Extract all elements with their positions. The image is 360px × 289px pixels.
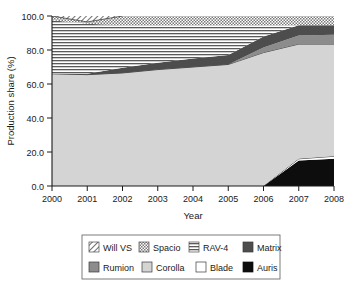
legend-swatch-rumion [89, 262, 99, 272]
x-tick-label: 2001 [77, 194, 97, 204]
legend-swatch-matrix [243, 242, 253, 252]
legend-swatch-rav4 [189, 242, 199, 252]
legend-swatch-blade [196, 262, 206, 272]
x-tick-label: 2004 [183, 194, 203, 204]
x-tick-label: 2005 [218, 194, 238, 204]
chart-figure: 100.0 80.0 60.0 40.0 20.0 0.0 2000 2001 … [0, 0, 360, 289]
y-tick-label: 40.0 [26, 114, 44, 124]
y-axis-title: Production share (%) [5, 56, 16, 145]
area-stack-group [52, 16, 334, 186]
x-tick-label: 2008 [324, 194, 344, 204]
legend-label-auris: Auris [257, 263, 278, 273]
x-tick-label: 2000 [42, 194, 62, 204]
y-tick-label: 100.0 [21, 12, 44, 22]
legend-label-corolla: Corolla [156, 263, 185, 273]
legend-label-blade: Blade [210, 263, 233, 273]
legend-label-will-vs: Will VS [103, 243, 132, 253]
legend-swatch-will-vs [89, 242, 99, 252]
legend-label-spacio: Spacio [153, 243, 181, 253]
x-axis-title: Year [183, 210, 202, 221]
stacked-area-chart: 100.0 80.0 60.0 40.0 20.0 0.0 2000 2001 … [0, 0, 360, 289]
y-tick-label: 80.0 [26, 46, 44, 56]
legend-label-rumion: Rumion [103, 263, 134, 273]
x-axis-ticks [52, 186, 334, 191]
legend-swatch-corolla [142, 262, 152, 272]
legend-swatch-spacio [139, 242, 149, 252]
x-tick-label: 2002 [112, 194, 132, 204]
chart-legend: Will VS Spacio RAV-4 Matrix Rumion Corol… [82, 235, 282, 279]
x-tick-label: 2006 [253, 194, 273, 204]
x-axis-tick-labels: 2000 2001 2002 2003 2004 2005 2006 2007 … [42, 194, 344, 204]
y-axis-tick-labels: 100.0 80.0 60.0 40.0 20.0 0.0 [21, 12, 44, 192]
y-tick-label: 0.0 [31, 182, 44, 192]
legend-label-rav4: RAV-4 [203, 243, 228, 253]
x-tick-label: 2007 [289, 194, 309, 204]
legend-swatch-auris [243, 262, 253, 272]
y-axis-ticks [47, 16, 52, 186]
y-tick-label: 60.0 [26, 80, 44, 90]
x-tick-label: 2003 [148, 194, 168, 204]
y-tick-label: 20.0 [26, 148, 44, 158]
legend-label-matrix: Matrix [257, 243, 282, 253]
